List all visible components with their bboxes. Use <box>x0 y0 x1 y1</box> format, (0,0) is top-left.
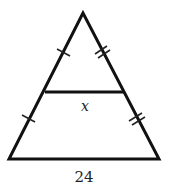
triangle-diagram: x 24 <box>0 0 172 188</box>
base-label: 24 <box>74 168 93 186</box>
triangle-outline <box>9 13 159 159</box>
midsegment-label: x <box>81 98 89 114</box>
